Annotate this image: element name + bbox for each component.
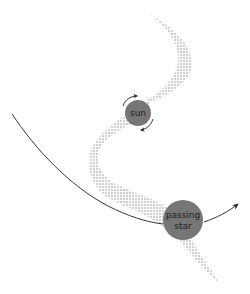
- sun-label: sun: [130, 108, 146, 118]
- passing-star-circle: [163, 200, 203, 240]
- trajectory-outgoing-arrow: [204, 204, 238, 222]
- passing-star-label-line1: passing: [166, 210, 201, 220]
- passing-star-label-line2: star: [174, 221, 192, 231]
- tidal-band: [89, 15, 220, 284]
- diagram-canvas: sun passing star: [0, 0, 250, 294]
- passing-star: passing star: [163, 200, 203, 240]
